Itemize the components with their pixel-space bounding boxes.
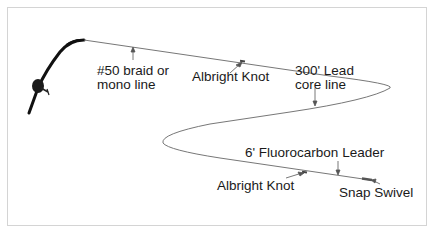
reel-icon — [32, 79, 49, 95]
fluorocarbon-leader-label: 6' Fluorocarbon Leader — [245, 146, 384, 160]
braid-line-label-2: mono line — [97, 78, 156, 92]
lead-core-label-2: core line — [295, 78, 346, 92]
fishing-rod-icon — [29, 40, 84, 113]
albright-knot-top-label: Albright Knot — [192, 70, 269, 84]
braid-line-label-1: #50 braid or — [97, 64, 169, 78]
lead-core-label-1: 300' Lead — [295, 64, 354, 78]
knot-icon-top — [240, 60, 245, 63]
albright-knot-bottom-label: Albright Knot — [217, 179, 294, 193]
snap-swivel-icon — [362, 177, 372, 181]
snap-swivel-label: Snap Swivel — [339, 186, 413, 200]
